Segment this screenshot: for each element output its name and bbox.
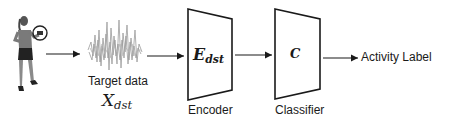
target-data-label: Target data (88, 74, 148, 88)
person-with-wrist-sensor-icon (15, 16, 47, 91)
encoder-symbol: Edst (193, 45, 224, 66)
encoder-label: Encoder (188, 103, 233, 117)
activity-label-output: Activity Label (361, 50, 432, 64)
symbol-subscript: dst (114, 98, 132, 112)
classifier-label: Classifier (275, 103, 324, 117)
symbol-subscript: dst (205, 53, 224, 66)
symbol-main: E (193, 45, 205, 64)
sensor-signal-waveform-icon (88, 20, 142, 70)
target-data-symbol: Xdst (102, 90, 132, 112)
diagram-canvas: Target data Xdst Edst Encoder C Classifi… (0, 0, 450, 123)
classifier-symbol: C (290, 46, 300, 61)
symbol-main: X (102, 90, 114, 110)
